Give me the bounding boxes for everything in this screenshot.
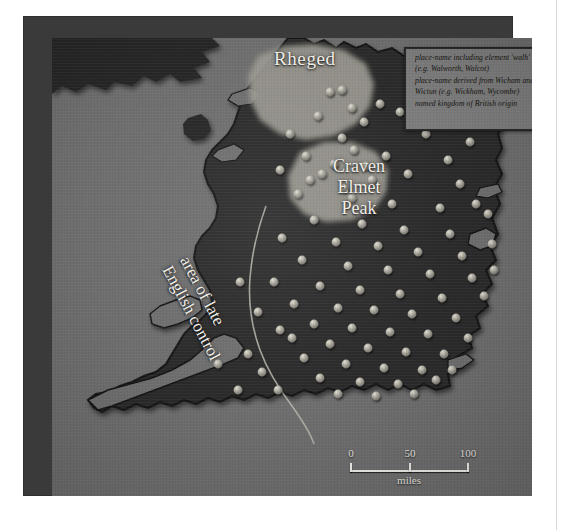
scalebar-tick-start bbox=[350, 463, 352, 472]
legend-walh-line2: (e.g. Walworth, Walcot) bbox=[415, 64, 489, 73]
map-figure-frame: Rheged Craven Elmet Peak area of late En… bbox=[24, 17, 512, 495]
scalebar-tick-mid bbox=[409, 463, 411, 472]
page-edge-rule bbox=[556, 0, 557, 530]
legend-item-wicham-text: place-name derived from Wicham and Wictu… bbox=[415, 76, 532, 97]
scalebar-label-0: 0 bbox=[348, 447, 354, 459]
legend-item-wicham: place-name derived from Wicham and Wictu… bbox=[410, 76, 532, 97]
legend-item-kingdom-text: named kingdom of British origin bbox=[415, 99, 517, 110]
map-legend: place-name including element 'walh' (e.g… bbox=[404, 47, 532, 131]
legend-walh-line1: place-name including element 'walh' bbox=[415, 53, 530, 62]
map-scalebar: 0 50 100 miles bbox=[349, 447, 471, 486]
neighbouring-landmasses bbox=[52, 38, 220, 94]
page-background: Rheged Craven Elmet Peak area of late En… bbox=[0, 0, 563, 530]
scalebar-tick-end bbox=[467, 463, 469, 472]
legend-wicham-line1: place-name derived from Wicham and bbox=[415, 76, 532, 85]
scotland-landmass bbox=[52, 38, 220, 94]
legend-item-kingdom: named kingdom of British origin bbox=[410, 99, 532, 110]
scalebar-label-50: 50 bbox=[405, 447, 416, 459]
scalebar-unit-label: miles bbox=[349, 474, 469, 486]
isle-of-man bbox=[183, 114, 211, 141]
map-canvas: Rheged Craven Elmet Peak area of late En… bbox=[52, 38, 532, 496]
legend-item-walh-text: place-name including element 'walh' (e.g… bbox=[415, 53, 530, 74]
legend-wicham-line2: Wictun (e.g. Wickham, Wycombe) bbox=[415, 87, 519, 96]
scalebar-label-100: 100 bbox=[460, 447, 477, 459]
scalebar-rule bbox=[349, 463, 471, 472]
legend-item-walh: place-name including element 'walh' (e.g… bbox=[410, 53, 532, 74]
legend-kingdom-line1: named kingdom of British origin bbox=[415, 99, 517, 108]
scalebar-tick-labels: 0 50 100 bbox=[349, 447, 471, 461]
